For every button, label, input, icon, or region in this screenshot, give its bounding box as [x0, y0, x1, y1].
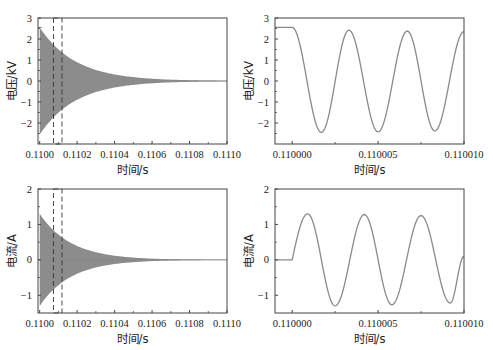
- x-tick-label: 0.110005: [359, 318, 398, 329]
- y-tick-label: 2: [27, 34, 32, 45]
- y-tick-label: −1: [21, 290, 32, 301]
- signal-line: [275, 214, 464, 306]
- y-tick-label: 1: [264, 55, 269, 66]
- y-axis-label: 电流/A: [5, 234, 19, 268]
- x-tick-label: 0.1106: [138, 318, 167, 329]
- x-tick-label: 0.1104: [100, 318, 129, 329]
- y-tick-label: 2: [27, 184, 32, 195]
- y-tick-label: −2: [21, 118, 32, 129]
- x-axis-label: 时间/s: [117, 332, 149, 346]
- x-tick-label: 0.110005: [359, 149, 398, 160]
- y-tick-label: 0: [264, 76, 269, 87]
- y-tick-label: 1: [264, 219, 269, 230]
- y-tick-label: 0: [27, 76, 32, 87]
- y-tick-label: 1: [27, 219, 32, 230]
- y-tick-label: 2: [264, 34, 269, 45]
- y-axis-label: 电压/kV: [5, 61, 19, 102]
- y-tick-label: −1: [258, 290, 269, 301]
- x-tick-label: 0.1100: [25, 318, 54, 329]
- y-tick-label: 0: [27, 254, 32, 265]
- x-tick-label: 0.1102: [63, 318, 92, 329]
- x-axis-label: 时间/s: [354, 163, 386, 177]
- x-tick-label: 0.1106: [138, 149, 167, 160]
- figure: 3210−1−20.11000.11020.11040.11060.11080.…: [0, 0, 493, 350]
- x-tick-label: 0.1110: [213, 149, 241, 160]
- y-tick-label: −1: [258, 97, 269, 108]
- x-tick-label: 0.110000: [273, 318, 312, 329]
- signal-line: [275, 27, 464, 132]
- axes-frame: [275, 189, 464, 313]
- axes-frame: [275, 18, 464, 144]
- y-tick-label: 0: [264, 254, 269, 265]
- x-tick-label: 0.110000: [273, 149, 312, 160]
- y-tick-label: −2: [258, 118, 269, 129]
- y-tick-label: 3: [264, 13, 269, 24]
- x-tick-label: 0.1102: [63, 149, 92, 160]
- voltage-zoom-chart: 3210−1−20.1100000.1100050.110010时间/s电压/k…: [242, 13, 484, 178]
- plot-area: [38, 27, 227, 134]
- x-tick-label: 0.1104: [100, 149, 129, 160]
- voltage-overview-chart: 3210−1−20.11000.11020.11040.11060.11080.…: [5, 13, 241, 178]
- plot-area: [275, 214, 464, 306]
- plot-area: [275, 27, 464, 132]
- y-axis-label: 电流/A: [242, 234, 256, 268]
- x-axis-label: 时间/s: [354, 332, 386, 346]
- x-axis-label: 时间/s: [117, 163, 149, 177]
- x-tick-label: 0.1108: [175, 318, 204, 329]
- y-tick-label: −1: [21, 97, 32, 108]
- y-axis-label: 电压/kV: [242, 61, 256, 102]
- current-overview-chart: 210−10.11000.11020.11040.11060.11080.111…: [5, 184, 241, 347]
- y-tick-label: 3: [27, 13, 32, 24]
- y-tick-label: 1: [27, 55, 32, 66]
- y-tick-label: 2: [264, 184, 269, 195]
- x-tick-label: 0.1110: [213, 318, 241, 329]
- x-tick-label: 0.1108: [175, 149, 204, 160]
- x-tick-label: 0.1100: [25, 149, 54, 160]
- current-zoom-chart: 210−10.1100000.1100050.110010时间/s电流/A: [242, 184, 484, 347]
- x-tick-label: 0.110010: [445, 149, 484, 160]
- x-tick-label: 0.110010: [445, 318, 484, 329]
- plot-area: [38, 214, 227, 306]
